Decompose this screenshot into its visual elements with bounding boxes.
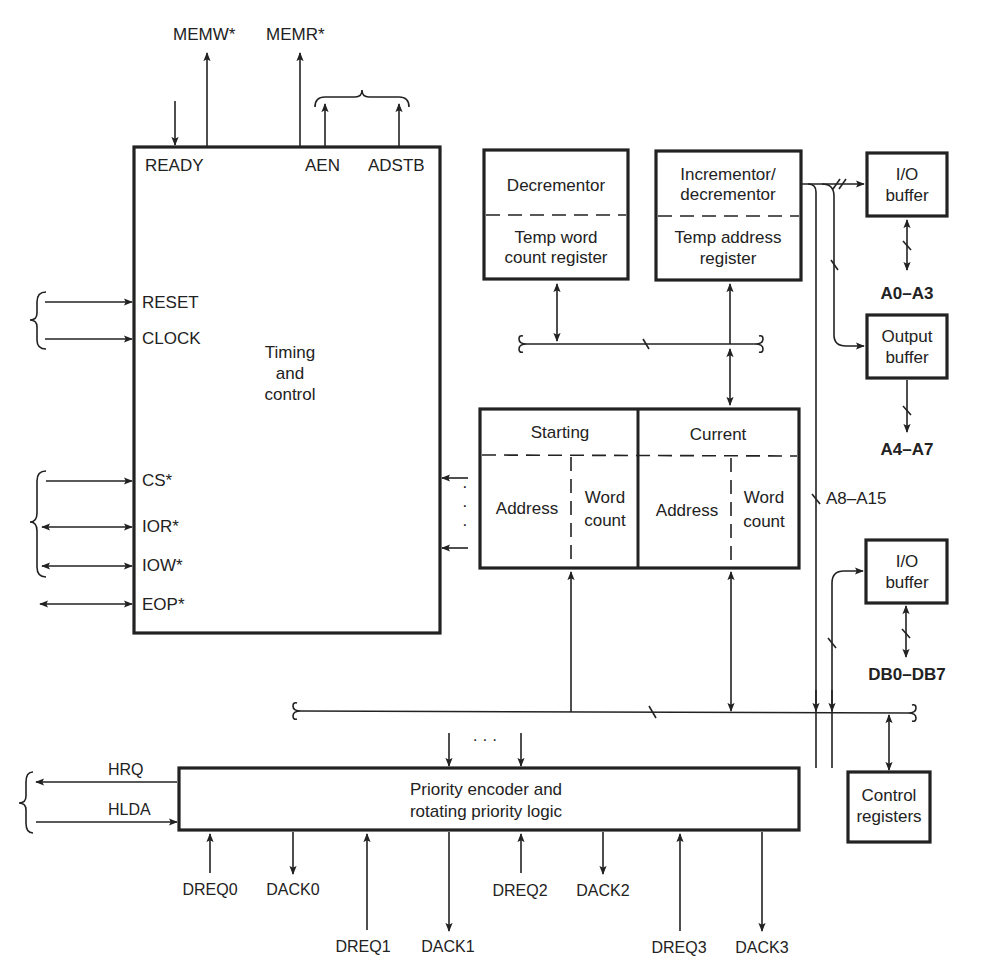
priority-label-1: Priority encoder and [410, 780, 562, 799]
io-buffer-data-box [866, 540, 947, 603]
current-word-label-2: count [743, 512, 785, 531]
left-signals [30, 292, 132, 604]
clock-pin: CLOCK [142, 329, 201, 348]
dreq2-label: DREQ2 [492, 882, 547, 899]
internal-bus-line [301, 711, 908, 713]
io-buffer-address-label-2: buffer [885, 186, 929, 205]
timing-label-3: control [264, 385, 315, 404]
output-buffer: Output buffer A4–A7 [867, 315, 947, 459]
a4-a7-label: A4–A7 [881, 440, 934, 459]
dack0-label: DACK0 [266, 881, 319, 898]
priority-label-2: rotating priority logic [410, 802, 563, 821]
cs-pin: CS* [142, 471, 173, 490]
adstb-pin: ADSTB [368, 156, 425, 175]
reset-clock-brace [30, 292, 46, 349]
output-buffer-label-2: buffer [885, 348, 929, 367]
addr-high-line [808, 184, 816, 768]
incrementor-label-2: decrementor [680, 185, 776, 204]
control-registers: Control registers [848, 772, 930, 842]
vertical-ellipsis-dot2: · [462, 496, 468, 515]
io-buffer-data: I/O buffer DB0–DB7 [828, 540, 947, 768]
dreq3-label: DREQ3 [651, 939, 706, 956]
dack3-label: DACK3 [735, 939, 788, 956]
io-buffer-address: I/O buffer A0–A3 [867, 153, 947, 303]
starting-address-label: Address [496, 499, 558, 518]
top-signals: MEMW* MEMR* [173, 25, 409, 147]
ior-pin: IOR* [142, 517, 179, 536]
data-bus-to-io-buffer [832, 571, 863, 768]
aen-pin: AEN [305, 156, 340, 175]
output-buffer-box [867, 315, 947, 378]
addr-mid-line [822, 184, 864, 346]
temp-word-label-2: count register [505, 248, 608, 267]
io-buffer-data-label-2: buffer [885, 573, 929, 592]
hlda-label: HLDA [108, 801, 151, 818]
current-address-label: Address [656, 501, 718, 520]
addr-high-label: A8–A15 [826, 489, 887, 508]
dreq0-label: DREQ0 [182, 881, 237, 898]
vertical-ellipsis-dot3: · [462, 515, 468, 534]
incrementor-block: Incrementor/ decrementor Temp address re… [656, 151, 801, 280]
vertical-ellipsis-dot1: · [462, 477, 468, 496]
register-file-hdivider [482, 455, 797, 456]
current-label: Current [690, 425, 747, 444]
temp-word-label-1: Temp word [514, 228, 597, 247]
internal-bus-left-break [293, 703, 301, 719]
io-buffer-address-label-1: I/O [896, 165, 919, 184]
register-file: Starting Current Address Word count Addr… [480, 409, 799, 568]
control-registers-label-2: registers [856, 807, 921, 826]
aen-adstb-brace [315, 90, 409, 107]
temp-address-label-2: register [700, 249, 757, 268]
decrementor-block: Decrementor Temp word count register [484, 150, 628, 279]
a0-a3-label: A0–A3 [881, 284, 934, 303]
temp-bus-right-break [755, 336, 763, 352]
eop-pin: EOP* [142, 595, 185, 614]
timing-control-block: READY AEN ADSTB RESET CLOCK Timing and c… [134, 147, 440, 633]
dack2-label: DACK2 [576, 882, 629, 899]
starting-word-label-2: count [584, 511, 626, 530]
temp-address-label-1: Temp address [675, 228, 782, 247]
io-buffer-address-box [867, 153, 947, 216]
db0-db7-label: DB0–DB7 [868, 665, 945, 684]
channel-signals: DREQ0 DACK0 DREQ1 DACK1 DREQ2 DACK2 DREQ… [182, 832, 788, 956]
hrq-label: HRQ [108, 761, 144, 778]
temp-bus [519, 284, 763, 405]
output-buffer-label-1: Output [881, 327, 932, 346]
reset-pin: RESET [142, 293, 199, 312]
starting-label: Starting [531, 423, 590, 442]
memw-label: MEMW* [173, 25, 236, 44]
timing-label-1: Timing [265, 343, 315, 362]
control-registers-label-1: Control [862, 786, 917, 805]
hrq-hlda-brace [19, 772, 33, 833]
incrementor-label-1: Incrementor/ [680, 165, 776, 184]
temp-bus-left-break [519, 336, 527, 352]
dma-block-diagram: MEMW* MEMR* READY AEN ADSTB RESET CLOCK … [0, 0, 982, 976]
timing-label-2: and [276, 364, 304, 383]
priority-block: Priority encoder and rotating priority l… [19, 731, 799, 833]
dack1-label: DACK1 [421, 938, 474, 955]
decrementor-label: Decrementor [507, 176, 606, 195]
internal-bus-right-break [908, 705, 916, 721]
ready-pin: READY [145, 156, 204, 175]
cs-ior-iow-brace [30, 471, 46, 577]
internal-bus [293, 572, 916, 770]
io-buffer-data-label-1: I/O [896, 552, 919, 571]
horizontal-ellipsis: · · · [473, 731, 498, 748]
memr-label: MEMR* [266, 25, 325, 44]
dreq1-label: DREQ1 [335, 938, 390, 955]
current-word-label-1: Word [744, 488, 784, 507]
iow-pin: IOW* [142, 556, 183, 575]
starting-word-label-1: Word [585, 488, 625, 507]
